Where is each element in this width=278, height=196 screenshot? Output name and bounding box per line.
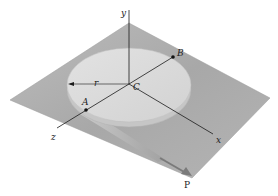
center-label: C: [133, 82, 140, 92]
point-b: [171, 55, 175, 59]
point-a: [84, 108, 88, 112]
point-b-label: B: [176, 48, 184, 58]
force-p-label: P: [184, 180, 190, 190]
disk-on-plane-diagram: y B C r A z x P: [0, 0, 278, 196]
y-axis-label: y: [120, 8, 127, 18]
radius-label: r: [94, 78, 99, 88]
x-axis-label: x: [216, 135, 221, 145]
point-a-label: A: [81, 97, 89, 107]
z-axis-label: z: [50, 132, 56, 142]
